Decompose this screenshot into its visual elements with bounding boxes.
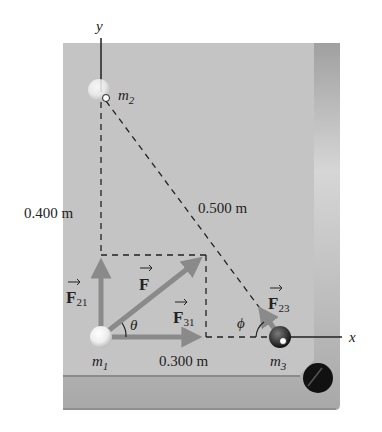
- y-axis-label: y: [94, 18, 103, 34]
- distance-diagonal: 0.500 m: [198, 200, 248, 216]
- angle-theta-label: θ: [130, 317, 138, 333]
- x-axis-label: x: [348, 329, 356, 345]
- distance-vertical: 0.400 m: [24, 205, 74, 221]
- angle-phi-label: ϕ: [237, 315, 245, 331]
- svg-text:F: F: [139, 275, 149, 294]
- ball-m3: [269, 326, 291, 348]
- billiard-force-diagram: y x m2 m1 m3 0.400 m 0.300 m 0.500 m F21…: [0, 0, 382, 432]
- ball-m1: [90, 326, 112, 348]
- distance-horizontal: 0.300 m: [159, 353, 209, 369]
- corner-pocket: [303, 363, 333, 393]
